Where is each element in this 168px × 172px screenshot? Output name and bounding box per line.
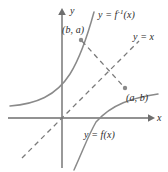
x-axis-label: x — [157, 113, 162, 123]
inverse-function-label-prefix: y = f — [98, 9, 117, 20]
point-label-b-a: (b, a) — [62, 25, 84, 35]
inverse-function-label: y = f-1(x) — [98, 9, 135, 20]
x-axis-arrowhead — [148, 114, 155, 122]
point-marker-a-b — [123, 86, 127, 90]
x-axis — [8, 114, 155, 122]
inverse-function-graph-figure: y x y = f-1(x) y = x y = f(x) (b, a) (a,… — [0, 0, 168, 172]
point-label-a-b: (a, b) — [126, 93, 148, 103]
point-marker-b-a — [79, 38, 83, 42]
function-label: y = f(x) — [84, 130, 115, 140]
inverse-function-label-suffix: (x) — [124, 9, 135, 20]
reflection-segment — [82, 41, 124, 87]
identity-line-label: y = x — [133, 32, 154, 42]
y-axis-label: y — [70, 6, 75, 16]
y-axis-arrowhead — [58, 8, 66, 15]
